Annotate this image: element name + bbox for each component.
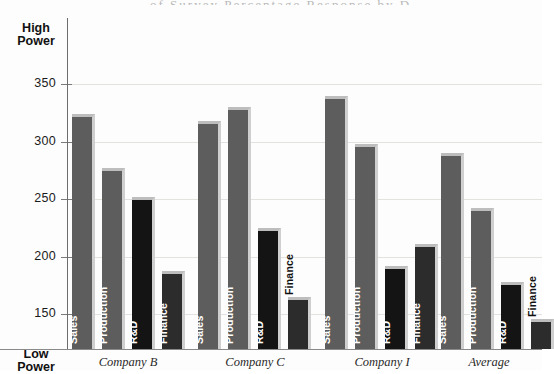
bar-label: R&D: [496, 321, 508, 344]
y-tick-label: 150: [16, 306, 56, 320]
x-axis-line: [0, 349, 542, 350]
y-tick-label: 200: [16, 249, 56, 263]
bar[interactable]: [72, 114, 95, 349]
group-label: Company I: [322, 355, 442, 370]
bar[interactable]: [288, 297, 311, 349]
bar-slot: Sales: [325, 96, 348, 350]
bar-slot: R&D: [385, 266, 408, 349]
bar-slot: Sales: [72, 114, 95, 349]
bar-label: Sales: [436, 316, 448, 344]
bar-label: Production: [350, 287, 362, 344]
bar-slot: Sales: [441, 153, 464, 349]
clipped-title-sliver: of Survey Percentage Response by Departm…: [150, 0, 410, 5]
axis-pole-low: Low Power: [10, 348, 62, 374]
bar-group: SalesProductionR&DFinance: [72, 18, 185, 349]
bar-slot: Finance: [288, 297, 311, 349]
bar-label: R&D: [380, 321, 392, 344]
bar-slot: R&D: [501, 282, 524, 349]
bar-label: R&D: [253, 321, 265, 344]
bar-label: Production: [223, 287, 235, 344]
bar-label: Production: [466, 287, 478, 344]
bar-label: Finance: [157, 303, 169, 344]
bar-label: Sales: [193, 316, 205, 344]
plot-area: SalesProductionR&DFinanceSalesProduction…: [68, 18, 542, 349]
group-label: Average: [429, 355, 549, 370]
bar-slot: Production: [471, 208, 494, 349]
bar-slot: Sales: [198, 121, 221, 349]
bar-slot: R&D: [132, 197, 155, 349]
group-label: Company C: [195, 355, 315, 370]
bar-group: SalesProductionR&DFinance: [441, 18, 554, 349]
bar-label: R&D: [127, 321, 139, 344]
y-tick-label: 350: [16, 76, 56, 90]
axis-pole-high-line2: Power: [10, 35, 62, 48]
bar-label: Production: [97, 287, 109, 344]
bar-slot: R&D: [258, 228, 281, 349]
group-label: Company B: [68, 355, 188, 370]
bar-label: Sales: [67, 316, 79, 344]
bar-label: Finance: [410, 303, 422, 344]
bar-label: Finance: [526, 276, 538, 317]
bar-slot: Production: [102, 168, 125, 349]
bar-label: Finance: [283, 254, 295, 295]
y-tick-label: 300: [16, 134, 56, 148]
axis-pole-low-line2: Power: [10, 361, 62, 374]
bar-slot: Production: [355, 144, 378, 349]
bar-slot: Finance: [415, 244, 438, 349]
bar-slot: Production: [228, 107, 251, 349]
axis-pole-high: High Power: [10, 22, 62, 48]
bar-label: Sales: [320, 316, 332, 344]
bar[interactable]: [531, 319, 554, 349]
bar-group: SalesProductionR&DFinance: [325, 18, 438, 349]
bar-slot: Finance: [531, 319, 554, 349]
bar-group: SalesProductionR&DFinance: [198, 18, 311, 349]
bar[interactable]: [325, 96, 348, 350]
bar-slot: Finance: [162, 271, 185, 349]
y-tick-label: 250: [16, 191, 56, 205]
